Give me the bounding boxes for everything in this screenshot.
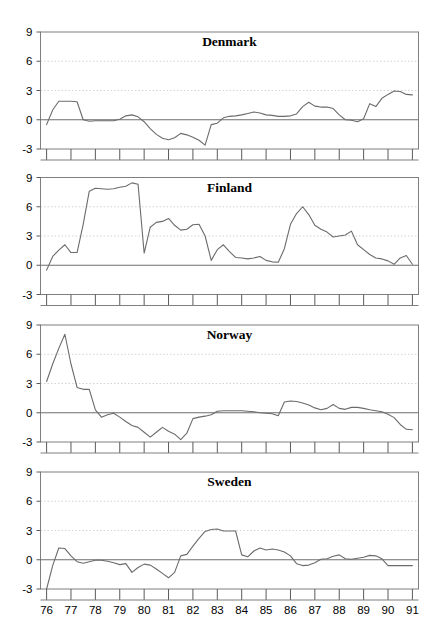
y-tick-label--3: -3 [22, 143, 32, 155]
y-tick-label-3: 3 [26, 525, 32, 537]
panel-title-denmark: Denmark [202, 34, 257, 49]
y-tick-label--3: -3 [22, 583, 32, 595]
y-tick-label-9: 9 [26, 172, 32, 184]
multi-panel-line-chart: -30369Denmark-30369Finland-30369Norway-3… [0, 0, 446, 629]
x-tick-label-83: 83 [211, 604, 224, 616]
x-tick-label-87: 87 [308, 604, 321, 616]
x-tick-label-77: 77 [65, 604, 78, 616]
series-line-denmark [47, 91, 413, 145]
x-tick-label-79: 79 [113, 604, 126, 616]
y-tick-label-0: 0 [26, 554, 32, 566]
x-tick-label-78: 78 [89, 604, 102, 616]
y-tick-label-3: 3 [26, 230, 32, 242]
series-line-finland [47, 183, 413, 270]
x-tick-label-85: 85 [260, 604, 273, 616]
y-tick-label-6: 6 [26, 55, 32, 67]
y-tick-label--3: -3 [22, 289, 32, 301]
x-tick-label-82: 82 [187, 604, 200, 616]
y-tick-label-3: 3 [26, 378, 32, 390]
x-tick-label-76: 76 [40, 604, 53, 616]
series-line-sweden [47, 529, 413, 589]
x-tick-label-90: 90 [382, 604, 395, 616]
y-tick-label-6: 6 [26, 495, 32, 507]
x-tick-label-89: 89 [357, 604, 370, 616]
x-tick-label-86: 86 [284, 604, 297, 616]
y-tick-label-6: 6 [26, 348, 32, 360]
panel-title-norway: Norway [207, 327, 253, 342]
y-tick-label-3: 3 [26, 85, 32, 97]
y-tick-label-9: 9 [26, 319, 32, 331]
y-tick-label-9: 9 [26, 466, 32, 478]
panel-title-sweden: Sweden [207, 474, 252, 489]
y-tick-label-0: 0 [26, 259, 32, 271]
y-tick-label-6: 6 [26, 201, 32, 213]
series-line-norway [47, 334, 413, 439]
y-tick-label-0: 0 [26, 407, 32, 419]
y-tick-label--3: -3 [22, 436, 32, 448]
panel-title-finland: Finland [207, 180, 253, 195]
y-tick-label-9: 9 [26, 26, 32, 38]
chart-canvas: -30369Denmark-30369Finland-30369Norway-3… [0, 0, 446, 629]
x-tick-label-91: 91 [406, 604, 419, 616]
x-tick-label-81: 81 [162, 604, 175, 616]
y-tick-label-0: 0 [26, 114, 32, 126]
x-tick-label-80: 80 [138, 604, 151, 616]
x-tick-label-88: 88 [333, 604, 346, 616]
x-tick-label-84: 84 [235, 604, 248, 616]
